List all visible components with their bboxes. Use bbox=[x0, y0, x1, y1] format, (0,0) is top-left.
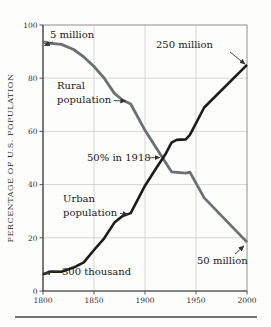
two-hundred-fifty-million-arrow bbox=[230, 52, 245, 64]
us-population-rural-urban-figure: 02040608010018001850190019502000 5 milli… bbox=[0, 0, 271, 327]
urban-population-arrow bbox=[120, 214, 128, 215]
y-tick-label: 60 bbox=[28, 127, 38, 136]
y-tick-label: 20 bbox=[28, 234, 38, 243]
fifty-million-arrow bbox=[235, 246, 244, 254]
two-hundred-fifty-million-label: 250 million bbox=[156, 39, 214, 50]
urban-population-label: Urbanpopulation bbox=[63, 193, 118, 218]
x-tick-label: 1950 bbox=[186, 296, 205, 305]
three-hundred-thousand-label: 300 thousand bbox=[62, 266, 132, 277]
y-axis-title: PERCENTAGE OF U.S. POPULATION bbox=[6, 73, 15, 242]
fifty-million-label: 50 million bbox=[197, 255, 248, 266]
y-tick-label: 0 bbox=[33, 287, 38, 296]
five-million-label: 5 million bbox=[50, 29, 95, 40]
x-tick-label: 1800 bbox=[33, 296, 52, 305]
y-tick-label: 100 bbox=[23, 21, 38, 30]
y-tick-label: 80 bbox=[28, 74, 38, 83]
fifty-percent-1918-label: 50% in 1918 bbox=[87, 152, 151, 163]
x-tick-label: 2000 bbox=[237, 296, 256, 305]
x-tick-label: 1900 bbox=[135, 296, 154, 305]
annotations: 5 millionRuralpopulation50% in 1918Urban… bbox=[45, 29, 249, 277]
x-tick-label: 1850 bbox=[84, 296, 103, 305]
y-tick-label: 40 bbox=[28, 180, 38, 189]
rural-population-label: Ruralpopulation bbox=[57, 80, 112, 105]
chart-svg: 02040608010018001850190019502000 5 milli… bbox=[0, 0, 271, 327]
